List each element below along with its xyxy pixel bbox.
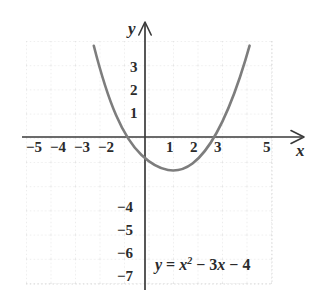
x-tick-label--3: −3 xyxy=(74,140,90,155)
x-tick-label-5: 5 xyxy=(263,140,271,155)
x-tick-label-1: 1 xyxy=(166,140,174,155)
y-tick-label-2: 2 xyxy=(130,83,138,98)
parabola-plot xyxy=(0,0,325,293)
y-axis-name: y xyxy=(128,20,136,37)
equation-term2: − 3 xyxy=(192,256,217,273)
equation-annotation: y = x2 − 3x − 4 xyxy=(155,256,250,273)
x-tick-label-2: 2 xyxy=(190,140,198,155)
y-tick-label-3: 3 xyxy=(130,60,138,75)
equation-equals: = xyxy=(162,256,179,273)
y-tick-label-1: 1 xyxy=(130,106,138,121)
x-tick-label--2: −2 xyxy=(98,140,114,155)
x-tick-label-3: 3 xyxy=(214,140,222,155)
graph-figure: −5 −4 −3 −2 1 2 3 5 3 2 1 −4 −5 −6 −7 y … xyxy=(0,0,325,293)
y-tick-label--5: −5 xyxy=(117,223,133,238)
x-tick-label--4: −4 xyxy=(50,140,66,155)
y-tick-label--7: −7 xyxy=(117,269,133,284)
y-tick-label--4: −4 xyxy=(117,200,133,215)
x-axis-name: x xyxy=(296,142,305,159)
x-tick-label--5: −5 xyxy=(26,140,42,155)
equation-term3: − 4 xyxy=(225,256,250,273)
y-tick-label--6: −6 xyxy=(117,246,133,261)
